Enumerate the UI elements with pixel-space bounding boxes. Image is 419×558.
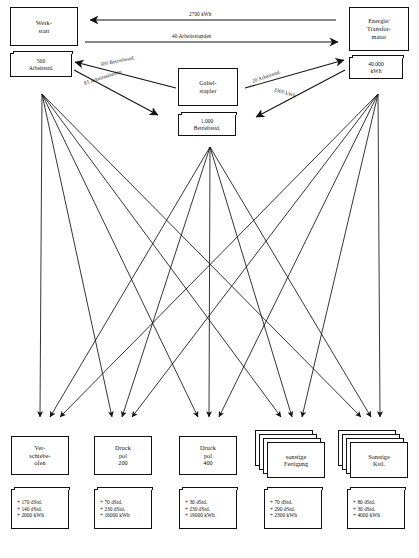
node-sonstige-kstl-values[interactable]: + 80 dStd. + 30 dStd. + 4000 kWh <box>347 489 405 529</box>
verschiebeofen-title-line-2: schiebe- <box>29 452 50 460</box>
edge-label-2700-kwh: 2700 kWh <box>189 11 212 17</box>
druckpol400-value-1: + 30 dStd. <box>185 499 207 506</box>
edge-label-40-arbeitsstunden: 40 Arbeitsstunden <box>172 33 211 39</box>
sonstige-fertigung-value-1: + 70 dStd. <box>270 499 292 506</box>
fanout-energie <box>60 94 380 417</box>
druckpol200-title-line-2: pol <box>119 452 127 460</box>
verschiebeofen-value-1: + 170 dStd. <box>17 499 42 506</box>
druckpol400-value-2: + 230 dStd. <box>185 506 210 513</box>
node-sonstige-kstl-stack[interactable]: Sonstige Kstl. <box>338 430 410 478</box>
node-sonstige-fertigung-title[interactable]: sonstige Fertigung <box>267 442 325 478</box>
druckpol200-value-3: + 16000 kWh <box>100 512 130 519</box>
node-gabelstapler-title[interactable]: Gabel- stapler <box>178 68 238 106</box>
druckpol400-value-3: + 19000 kWh <box>185 512 215 519</box>
sonstige-kstl-value-2: + 30 dStd. <box>353 506 375 513</box>
node-werkstatt-value[interactable]: 500 Arbeitsstd. <box>10 53 72 77</box>
energie-value-line-2: kWh <box>371 68 382 75</box>
druckpol400-title-line-3: 400 <box>203 459 213 467</box>
verschiebeofen-value-2: + 140 dStd. <box>17 506 42 513</box>
verschiebeofen-value-3: + 2000 kWh <box>17 512 44 519</box>
node-gabelstapler-value[interactable]: 1.000 Betriebsstd. <box>178 114 236 136</box>
gabelstapler-title-line-1: Gabel- <box>199 79 216 87</box>
werkstatt-title-line-2: statt <box>39 27 50 35</box>
energie-value-line-1: 40.000 <box>368 61 383 68</box>
node-druckpol200-title[interactable]: Druck pol 200 <box>94 436 152 475</box>
sonstige-fertigung-title-line-1: sonstige <box>286 453 306 460</box>
druckpol200-title-line-1: Druck <box>115 444 131 452</box>
verschiebeofen-title-line-1: Ver- <box>35 444 46 452</box>
node-druckpol400-values[interactable]: + 30 dStd. + 230 dStd. + 19000 kWh <box>179 489 237 529</box>
diagram-canvas: Werk- statt 500 Arbeitsstd. Gabel- stapl… <box>0 0 419 558</box>
werkstatt-title-line-1: Werk- <box>36 19 52 27</box>
node-verschiebeofen-title[interactable]: Ver- schiebe- ofen <box>11 436 69 475</box>
gabelstapler-value-line-2: Betriebsstd. <box>194 125 221 132</box>
sonstige-kstl-value-1: + 80 dStd. <box>353 499 375 506</box>
verschiebeofen-title-line-3: ofen <box>34 459 45 467</box>
sonstige-kstl-value-3: + 4000 kWh <box>353 512 380 519</box>
node-verschiebeofen-values[interactable]: + 170 dStd. + 140 dStd. + 2000 kWh <box>11 489 69 529</box>
energie-title-line-3: mator <box>372 33 387 41</box>
druckpol400-title-line-2: pol <box>204 452 212 460</box>
druckpol200-value-1: + 70 dStd. <box>100 499 122 506</box>
werkstatt-value-line-1: 500 <box>37 58 45 65</box>
sonstige-fertigung-value-3: + 2300 kWh <box>270 512 297 519</box>
node-sonstige-fertigung-stack[interactable]: sonstige Fertigung <box>255 430 327 478</box>
sonstige-kstl-title-line-2: Kstl. <box>373 460 385 467</box>
node-druckpol200-values[interactable]: + 70 dStd. + 230 dStd. + 16000 kWh <box>94 489 152 529</box>
node-energie-value[interactable]: 40.000 kWh <box>349 57 403 79</box>
node-sonstige-kstl-title[interactable]: Sonstige Kstl. <box>350 442 408 478</box>
sonstige-kstl-title-line-1: Sonstige <box>368 453 389 460</box>
edge-werkstatt-to-stapler <box>74 70 158 115</box>
gabelstapler-value-line-1: 1.000 <box>201 118 214 125</box>
sonstige-fertigung-title-line-2: Fertigung <box>284 460 308 467</box>
druckpol200-value-2: + 230 dStd. <box>100 506 125 513</box>
node-werkstatt-title[interactable]: Werk- statt <box>10 7 78 46</box>
energie-title-line-1: Energie/ <box>368 17 390 25</box>
node-energie-title[interactable]: Energie/ Transfor- mator <box>349 7 409 51</box>
druckpol200-title-line-3: 200 <box>118 459 128 467</box>
node-druckpol400-title[interactable]: Druck pol 400 <box>179 436 237 475</box>
gabelstapler-title-line-2: stapler <box>199 87 216 95</box>
node-sonstige-fertigung-values[interactable]: + 70 dStd. + 290 dStd. + 2300 kWh <box>264 489 322 529</box>
sonstige-fertigung-value-2: + 290 dStd. <box>270 506 295 513</box>
fanout-werkstatt <box>40 94 361 417</box>
werkstatt-value-line-2: Arbeitsstd. <box>29 65 53 72</box>
druckpol400-title-line-1: Druck <box>200 444 216 452</box>
energie-title-line-2: Transfor- <box>367 25 391 33</box>
fanout-gabelstapler <box>50 147 371 417</box>
